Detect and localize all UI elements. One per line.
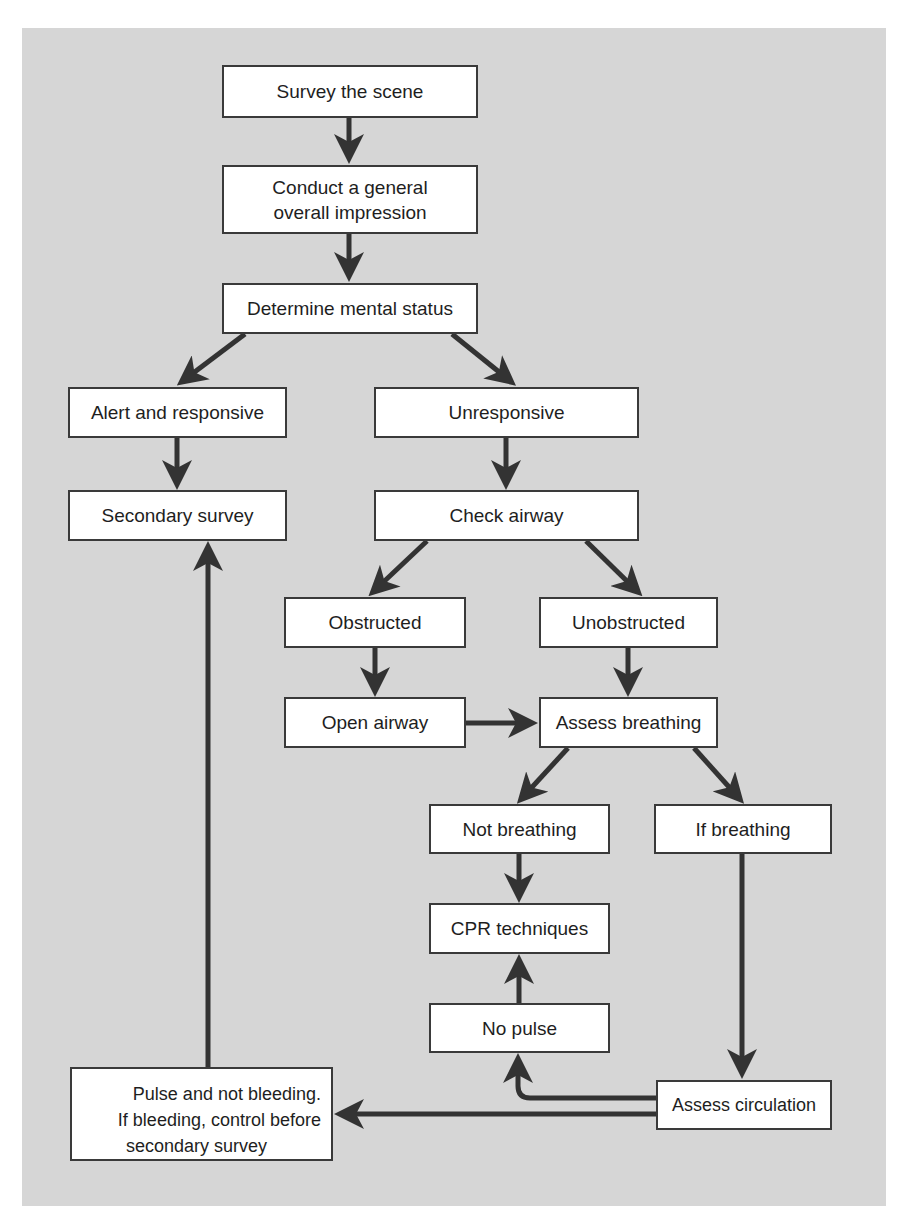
node-label: Obstructed [329, 610, 422, 635]
node-no-pulse: No pulse [429, 1003, 610, 1053]
node-label: Unobstructed [572, 610, 685, 635]
node-label: Unresponsive [448, 400, 564, 425]
node-unobstructed: Unobstructed [539, 597, 718, 648]
node-label-line3: secondary survey [126, 1133, 267, 1159]
node-general-impression: Conduct a general overall impression [222, 165, 478, 234]
node-label-line1: Pulse and not bleeding. [133, 1081, 321, 1107]
node-if-breathing: If breathing [654, 804, 832, 854]
node-not-breathing: Not breathing [429, 804, 610, 854]
node-check-airway: Check airway [374, 490, 639, 541]
node-unresponsive: Unresponsive [374, 387, 639, 438]
node-pulse-not-bleeding: Pulse and not bleeding. If bleeding, con… [70, 1067, 333, 1161]
node-label: Secondary survey [101, 503, 253, 528]
node-cpr-techniques: CPR techniques [429, 903, 610, 954]
node-label: No pulse [482, 1016, 557, 1041]
node-label-line2: If bleeding, control before [118, 1107, 321, 1133]
node-label: Open airway [322, 710, 429, 735]
node-label: Check airway [449, 503, 563, 528]
node-label: Alert and responsive [91, 400, 264, 425]
node-label: Assess breathing [556, 710, 702, 735]
node-assess-circulation: Assess circulation [656, 1080, 832, 1130]
node-label: CPR techniques [451, 916, 588, 941]
node-label: Determine mental status [247, 296, 453, 321]
node-label-line2: overall impression [273, 200, 426, 225]
node-label: Not breathing [462, 817, 576, 842]
node-label: If breathing [695, 817, 790, 842]
node-assess-breathing: Assess breathing [539, 697, 718, 748]
node-label-line1: Conduct a general [272, 175, 427, 200]
node-obstructed: Obstructed [284, 597, 466, 648]
node-label: Assess circulation [672, 1093, 816, 1118]
node-label: Survey the scene [277, 79, 424, 104]
node-survey-scene: Survey the scene [222, 65, 478, 118]
node-secondary-survey: Secondary survey [68, 490, 287, 541]
node-open-airway: Open airway [284, 697, 466, 748]
node-alert-responsive: Alert and responsive [68, 387, 287, 438]
node-mental-status: Determine mental status [222, 283, 478, 334]
